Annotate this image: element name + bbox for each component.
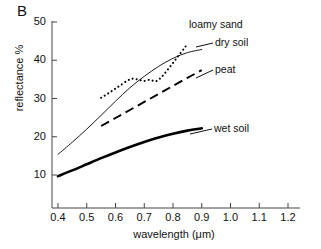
series-label-loamy-sand: loamy sand [189, 19, 243, 30]
y-tick-label: 20 [20, 131, 46, 142]
series-label-wet-soil: wet soil [214, 123, 249, 134]
x-tick-label: 0.8 [157, 212, 189, 223]
leader-line-dry-soil [196, 43, 213, 47]
y-tick-label: 50 [20, 16, 46, 27]
figure-panel-b: B reflectance % wavelength (μm) 10203040… [0, 0, 321, 249]
series-line-loamy-sand [101, 43, 187, 97]
y-axis-ticks [52, 22, 57, 175]
x-tick-label: 1.0 [215, 212, 247, 223]
leader-line-peat [196, 70, 213, 78]
x-tick-label: 0.4 [42, 212, 74, 223]
y-tick-label: 30 [20, 93, 46, 104]
series-label-peat: peat [215, 64, 235, 75]
y-tick-label: 40 [20, 54, 46, 65]
y-tick-label: 10 [20, 169, 46, 180]
x-axis-ticks [58, 203, 288, 208]
series-label-dry-soil: dry soil [215, 37, 248, 48]
axes [52, 21, 300, 208]
x-tick-label: 1.1 [243, 212, 275, 223]
label-leader-lines [190, 43, 213, 134]
x-tick-label: 0.7 [128, 212, 160, 223]
series-line-peat [101, 70, 202, 126]
series-line-dry-soil [58, 50, 202, 155]
x-tick-label: 1.2 [272, 212, 304, 223]
x-tick-label: 0.5 [71, 212, 103, 223]
x-tick-label: 0.6 [100, 212, 132, 223]
x-tick-label: 0.9 [186, 212, 218, 223]
data-series-group [58, 43, 202, 176]
